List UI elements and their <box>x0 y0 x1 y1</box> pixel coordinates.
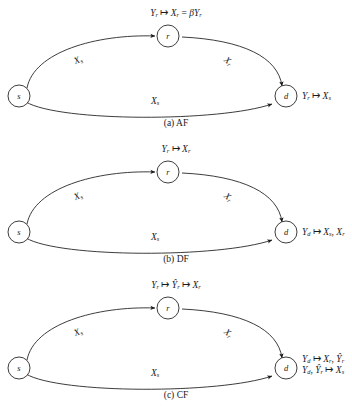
node-relay-label: r <box>159 303 177 313</box>
destination-mapping-af: Yr ↦ Xs <box>302 91 331 102</box>
node-destination-label: d <box>277 91 295 101</box>
destination-mapping-cf: Yd ↦ Xr, Ŷr Yd, Ŷr ↦ Xs <box>302 354 344 375</box>
destination-mapping-df-line1: Yd ↦ Xs, Xr <box>302 227 345 238</box>
node-source-label: s <box>10 363 28 373</box>
destination-mapping-cf-line2: Yd, Ŷr ↦ Xs <box>302 365 344 376</box>
relay-mapping-cf-text: Yr ↦ Ŷr ↦ Xr <box>151 280 200 290</box>
destination-mapping-cf-line1: Yd ↦ Xr, Ŷr <box>302 354 344 365</box>
caption-cf: (c) CF <box>0 390 352 400</box>
caption-df: (b) DF <box>0 254 352 264</box>
edge-source-relay <box>27 308 155 360</box>
relay-mapping-df: Yr ↦ Xr <box>0 144 352 155</box>
destination-mapping-af-line1: Yr ↦ Xs <box>302 91 331 102</box>
node-relay-label: r <box>159 167 177 177</box>
edge-label-sd-cf: Xs <box>151 368 159 379</box>
relay-protocol-figure: s r d Yr ↦ Xr = βYr Xs Xr Xs Yr ↦ <box>0 0 352 414</box>
relay-mapping-af-text: Yr ↦ Xr = βYr <box>150 8 202 18</box>
caption-af: (a) AF <box>0 118 352 128</box>
edge-label-sd-af: Xs <box>151 96 159 107</box>
edge-source-relay <box>27 172 155 224</box>
node-destination-label: d <box>277 227 295 237</box>
panel-df: s r d Yr ↦ Xr Xs Xr Xs Yd ↦ Xs, Xr <box>0 136 352 274</box>
relay-mapping-df-text: Yr ↦ Xr <box>162 144 191 154</box>
edge-label-sd-df: Xs <box>151 232 159 243</box>
y-hat-dest-1: Ŷ <box>336 354 341 365</box>
y-hat-relay: Ŷ <box>172 280 177 291</box>
edge-source-destination <box>26 374 272 389</box>
node-source-label: s <box>10 227 28 237</box>
node-destination-label: d <box>277 363 295 373</box>
panel-cf: s r d Yr ↦ Ŷr ↦ Xr Xs Xr Xs Yd ↦ Xr, <box>0 272 352 410</box>
panel-af: s r d Yr ↦ Xr = βYr Xs Xr Xs Yr ↦ <box>0 0 352 138</box>
edge-source-destination <box>26 238 272 253</box>
relay-mapping-cf: Yr ↦ Ŷr ↦ Xr <box>0 280 352 291</box>
destination-mapping-df: Yd ↦ Xs, Xr <box>302 227 345 238</box>
node-source-label: s <box>10 91 28 101</box>
y-hat-dest-2: Ŷ <box>315 365 320 376</box>
relay-mapping-af: Yr ↦ Xr = βYr <box>0 8 352 19</box>
edge-source-destination <box>26 102 272 117</box>
edge-source-relay <box>27 36 155 88</box>
node-relay-label: r <box>159 31 177 41</box>
